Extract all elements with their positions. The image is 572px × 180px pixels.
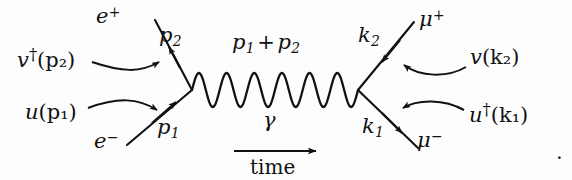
label-positron-particle: e+ (96, 6, 120, 27)
momentum-symbol-left: p (232, 30, 245, 54)
spinor-argument: (p₁) (39, 100, 77, 124)
charge-superscript: + (433, 7, 445, 23)
photon-propagator-wave (192, 73, 358, 107)
spinor-argument: (k₂) (482, 45, 520, 69)
momentum-index: 2 (173, 33, 182, 49)
spinor-base: v (470, 45, 482, 69)
dagger-glyph: † (483, 100, 491, 119)
particle-symbol: μ (419, 7, 433, 31)
pointer-curve-u-p1 (88, 100, 157, 110)
label-muon-momentum: k1 (362, 116, 384, 140)
plus-operator: + (255, 30, 278, 54)
charge-superscript: − (107, 129, 119, 145)
momentum-symbol: p (157, 115, 170, 139)
label-electron-momentum: p1 (157, 117, 180, 141)
diagram-canvas (0, 0, 572, 180)
label-photon-momentum: p1+p2 (232, 32, 300, 56)
spinor-base: u (469, 103, 483, 127)
momentum-index: 1 (375, 124, 384, 140)
pointer-curve-v-k2 (404, 65, 466, 75)
label-antimuon-momentum: k2 (358, 25, 380, 49)
label-antimuon-particle: μ+ (419, 9, 445, 30)
momentum-symbol: k (358, 23, 371, 47)
momentum-index: 1 (171, 125, 180, 141)
charge-superscript: + (109, 4, 121, 20)
momentum-symbol: k (362, 114, 375, 138)
particle-symbol: e (96, 4, 108, 28)
label-outgoing-muon-spinor: u†(k₁) (469, 102, 528, 126)
label-outgoing-antimuon-spinor: v(k₂) (470, 47, 519, 68)
dagger-glyph: † (29, 45, 37, 64)
spinor-argument: (p₂) (37, 48, 75, 72)
momentum-symbol: p (159, 23, 172, 47)
momentum-index-right: 2 (291, 40, 300, 56)
spinor-base: v (17, 48, 29, 72)
particle-symbol: e (94, 129, 106, 153)
label-electron-particle: e− (94, 131, 118, 152)
label-photon-particle: γ (263, 110, 276, 131)
charge-superscript: − (431, 128, 443, 144)
spinor-argument: (k₁) (491, 103, 529, 127)
particle-symbol: μ (417, 128, 431, 152)
label-positron-momentum: p2 (159, 25, 182, 49)
spinor-base: u (25, 100, 39, 124)
trailing-period: . (556, 142, 563, 163)
label-incoming-positron-spinor: v†(p₂) (17, 47, 75, 71)
momentum-index-left: 1 (246, 40, 255, 56)
feynman-diagram-figure: v†(p₂) u(p₁) e+ e− p2 p1 p1+p2 γ time k2… (0, 0, 572, 180)
label-muon-particle: μ− (417, 130, 443, 151)
momentum-index: 2 (371, 33, 380, 49)
label-time-axis: time (250, 157, 295, 177)
pointer-curve-v-dagger-p2 (92, 62, 159, 70)
pointer-curve-u-dagger-k1 (403, 101, 464, 110)
label-incoming-electron-spinor: u(p₁) (25, 102, 77, 123)
momentum-symbol-right: p (278, 30, 291, 54)
